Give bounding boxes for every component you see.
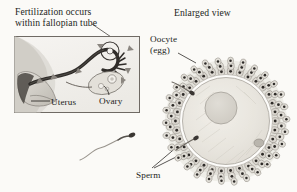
sperm-free-swimming: [80, 132, 136, 160]
figure-canvas: Fertilization occurswithin fallopian tub…: [0, 0, 297, 192]
label-sperm: Sperm: [136, 170, 161, 181]
label-oocyte: Oocyte(egg): [150, 34, 177, 55]
page-title-fertilization: Fertilization occurswithin fallopian tub…: [15, 6, 97, 28]
oocyte-nucleus: [205, 92, 237, 124]
page-title-enlarged-view: Enlarged view: [174, 7, 231, 18]
leader-line-oocyte: [178, 53, 196, 63]
illustration-layer: [0, 0, 297, 192]
label-uterus: Uterus: [51, 97, 76, 108]
oocyte-enlarged-view: [162, 57, 290, 186]
label-ovary: Ovary: [99, 96, 122, 107]
polar-body: [254, 139, 264, 147]
